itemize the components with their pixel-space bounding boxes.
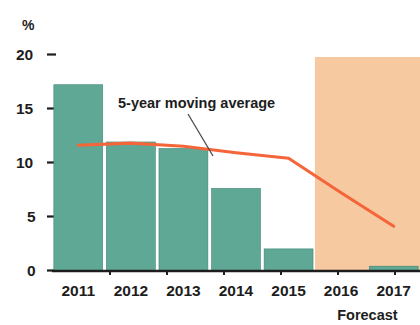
y-tick-label-15: 15: [16, 100, 34, 117]
y-tick-label-20: 20: [16, 46, 33, 63]
x-tick-label-2011: 2011: [61, 282, 95, 299]
moving-average-callout-label: 5-year moving average: [118, 95, 275, 111]
chart-container: % 20 15 10 5 0 2011 2012 2013 2014 2015 …: [0, 0, 420, 325]
bar-2014: [212, 188, 261, 270]
x-tick-label-2016: 2016: [324, 282, 359, 299]
forecast-caption-label: Forecast: [337, 307, 398, 323]
y-axis-unit-label: %: [22, 17, 35, 33]
x-tick-label-2015: 2015: [271, 282, 306, 299]
bar-2015: [264, 249, 313, 271]
x-tick-label-2012: 2012: [114, 282, 148, 299]
x-tick-label-2017: 2017: [376, 282, 410, 299]
x-tick-label-2014: 2014: [219, 282, 254, 299]
x-tick-label-2013: 2013: [166, 282, 201, 299]
forecast-shading-region: [315, 57, 420, 271]
bar-2012: [106, 142, 155, 271]
y-tick-label-10: 10: [16, 154, 33, 171]
bar-chart-svg: % 20 15 10 5 0 2011 2012 2013 2014 2015 …: [0, 0, 420, 325]
y-tick-label-5: 5: [27, 208, 36, 225]
bar-2013: [159, 148, 208, 270]
bar-2011: [54, 85, 103, 271]
y-tick-label-0: 0: [27, 262, 36, 279]
